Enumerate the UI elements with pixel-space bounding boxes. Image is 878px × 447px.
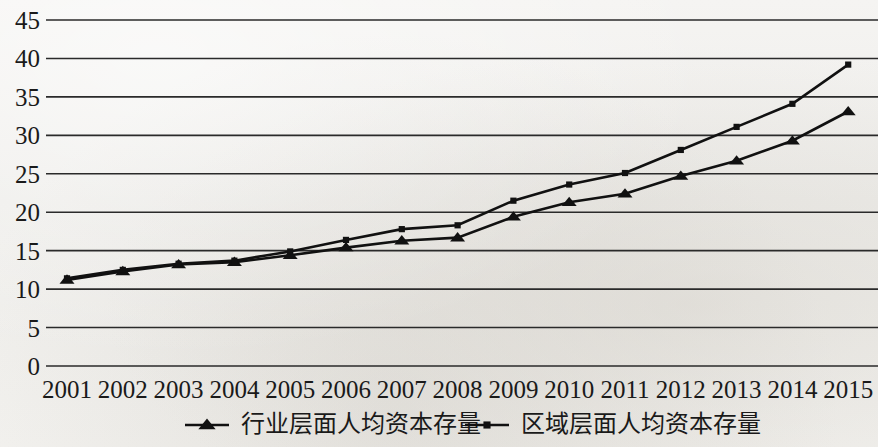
x-tick-label: 2001 <box>42 376 92 403</box>
legend-item-2[interactable]: 区域层面人均资本存量 <box>465 411 761 437</box>
y-tick-label: 45 <box>15 7 40 34</box>
legend-item-1[interactable]: 行业层面人均资本存量 <box>185 411 481 437</box>
series-1 <box>60 106 856 284</box>
gridlines-group <box>46 20 878 366</box>
square-marker <box>566 181 572 187</box>
x-axis-tick-labels: 2001200220032004200520062007200820092010… <box>42 376 873 403</box>
series-2 <box>64 61 851 281</box>
square-marker <box>734 124 740 130</box>
square-marker <box>399 226 405 232</box>
y-tick-label: 5 <box>28 315 41 342</box>
square-marker <box>455 222 461 228</box>
y-axis-tick-labels: 051015202530354045 <box>15 7 40 380</box>
y-tick-label: 0 <box>28 353 41 380</box>
y-tick-label: 20 <box>15 199 40 226</box>
chart-canvas: 051015202530354045 200120022003200420052… <box>0 0 878 447</box>
square-marker <box>231 258 237 264</box>
legend-label: 区域层面人均资本存量 <box>521 411 761 437</box>
line-chart: 051015202530354045 200120022003200420052… <box>0 0 878 447</box>
y-tick-label: 15 <box>15 238 40 265</box>
square-marker <box>845 61 851 67</box>
y-tick-label: 10 <box>15 276 40 303</box>
x-tick-label: 2002 <box>98 376 148 403</box>
x-tick-label: 2015 <box>823 376 873 403</box>
x-tick-label: 2011 <box>600 376 649 403</box>
x-tick-label: 2008 <box>433 376 483 403</box>
x-tick-label: 2012 <box>656 376 706 403</box>
y-tick-label: 40 <box>15 45 40 72</box>
square-marker <box>678 147 684 153</box>
x-tick-label: 2010 <box>544 376 594 403</box>
square-marker <box>287 248 293 254</box>
x-tick-label: 2014 <box>767 376 818 403</box>
x-tick-label: 2007 <box>377 376 427 403</box>
x-tick-label: 2009 <box>488 376 538 403</box>
x-tick-label: 2003 <box>154 376 204 403</box>
square-marker <box>120 267 126 273</box>
square-marker <box>64 275 70 281</box>
x-tick-label: 2006 <box>321 376 371 403</box>
square-marker <box>483 421 490 428</box>
series-line <box>67 111 848 279</box>
x-tick-label: 2004 <box>209 376 260 403</box>
square-marker <box>789 101 795 107</box>
y-tick-label: 30 <box>15 122 40 149</box>
square-marker <box>510 198 516 204</box>
triangle-marker <box>841 106 856 115</box>
chart-legend: 行业层面人均资本存量区域层面人均资本存量 <box>185 411 761 437</box>
x-tick-label: 2005 <box>265 376 315 403</box>
square-marker <box>622 170 628 176</box>
y-tick-label: 25 <box>15 161 40 188</box>
legend-label: 行业层面人均资本存量 <box>241 411 481 437</box>
y-tick-label: 35 <box>15 84 40 111</box>
square-marker <box>343 237 349 243</box>
square-marker <box>176 261 182 267</box>
x-tick-label: 2013 <box>712 376 762 403</box>
